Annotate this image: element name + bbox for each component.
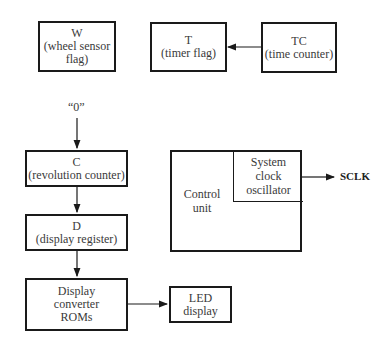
block-tc-title: TC [291,35,306,48]
sclk-output-label: SCLK [340,170,370,182]
zero-input-label: “0” [68,100,85,115]
block-d-display-register: D (display register) [25,214,128,251]
block-roms-line3: ROMs [60,311,92,324]
block-c-title: C [72,156,80,169]
block-t-line1: (timer flag) [161,47,216,60]
block-clock-line1: System [251,155,286,169]
block-c-line1: (revolution counter) [28,169,124,182]
control-unit-label: Control unit [180,187,224,215]
control-unit-line2: unit [180,201,224,215]
block-tc-line1: (time counter) [265,48,333,61]
block-w-line2: flag) [66,53,89,66]
block-d-line1: (display register) [36,233,118,246]
block-tc-time-counter: TC (time counter) [261,22,337,73]
block-w-wheel-sensor-flag: W (wheel sensor flag) [38,21,116,72]
block-clock-line2: clock [256,169,282,183]
block-control-unit: System clock oscillator Control unit [170,150,302,252]
block-led-display: LED display [169,286,232,323]
block-system-clock-oscillator: System clock oscillator [233,150,303,202]
control-unit-line1: Control [180,187,224,201]
block-display-converter-roms: Display converter ROMs [25,278,128,331]
block-d-title: D [72,220,81,233]
block-t-timer-flag: T (timer flag) [150,22,227,72]
block-clock-line3: oscillator [246,183,291,197]
block-c-revolution-counter: C (revolution counter) [25,150,128,187]
block-led-line2: display [183,305,218,318]
block-led-line1: LED [189,292,212,305]
